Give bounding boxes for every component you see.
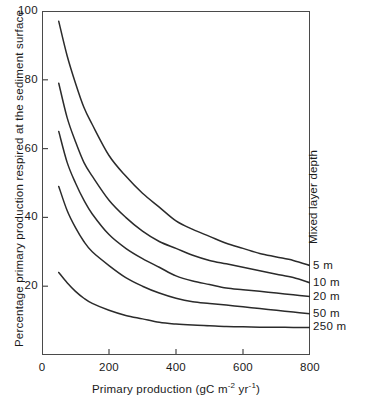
series-line bbox=[59, 21, 310, 265]
series-labels: 5 m10 m20 m50 m250 m bbox=[313, 0, 359, 411]
x-axis-tick-label: 200 bbox=[99, 362, 119, 374]
series-line bbox=[59, 83, 310, 283]
x-axis-title: Primary production (gC m-2 yr-1) bbox=[42, 383, 310, 395]
legend-title: Mixed layer depth bbox=[307, 124, 319, 244]
series-label: 10 m bbox=[313, 277, 340, 289]
x-axis-tick-label: 600 bbox=[233, 362, 253, 374]
series-label: 5 m bbox=[313, 260, 333, 272]
chart-curves bbox=[42, 11, 310, 355]
series-line bbox=[59, 186, 310, 313]
x-axis-tick-label: 0 bbox=[39, 362, 46, 374]
series-label: 50 m bbox=[313, 308, 340, 320]
series-label: 250 m bbox=[313, 322, 346, 334]
x-axis-tick-label: 400 bbox=[166, 362, 186, 374]
series-line bbox=[59, 131, 310, 296]
y-axis-title: Percentage primary production respired a… bbox=[13, 17, 25, 347]
chart-figure: 20406080100 Percentage primary productio… bbox=[0, 0, 391, 411]
series-label: 20 m bbox=[313, 291, 340, 303]
